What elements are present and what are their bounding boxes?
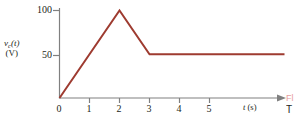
caption-black-fragment: T [286,104,301,117]
waveform-chart-figure: vc(t) (V) 100 50 0 1 2 3 4 5 t (s) Fl T [0,0,301,125]
figure-caption-cropped: Fl T [286,93,301,123]
x-axis-arrow-icon [277,95,286,102]
plot-area [0,0,301,125]
voltage-waveform-trace [60,11,285,99]
caption-red-fragment: Fl [286,93,301,104]
